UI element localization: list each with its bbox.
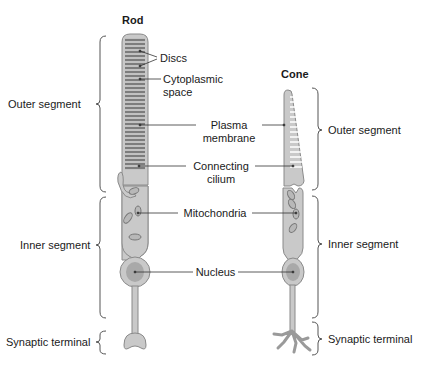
- cone-title: Cone: [281, 68, 309, 80]
- label-discs: Discs: [160, 52, 187, 64]
- label-inner-segment-right: Inner segment: [328, 238, 398, 250]
- cone-discs: [290, 97, 302, 167]
- label-connecting: Connecting: [187, 160, 255, 172]
- label-outer-segment-left: Outer segment: [8, 98, 81, 110]
- cone-cell: [274, 90, 310, 352]
- label-space: space: [163, 86, 192, 98]
- label-plasma: Plasma: [197, 119, 261, 131]
- label-cytoplasmic: Cytoplasmic: [163, 73, 223, 85]
- label-membrane: membrane: [197, 132, 261, 144]
- left-brackets: [96, 36, 106, 354]
- rod-title: Rod: [122, 14, 143, 26]
- rod-discs: [125, 40, 145, 168]
- label-cilium: cilium: [187, 173, 255, 185]
- label-synaptic-terminal-right: Synaptic terminal: [328, 333, 412, 345]
- label-nucleus: Nucleus: [193, 266, 238, 278]
- label-outer-segment-right: Outer segment: [328, 124, 401, 136]
- label-mitochondria: Mitochondria: [178, 207, 252, 219]
- label-synaptic-terminal-left: Synaptic terminal: [6, 336, 90, 348]
- right-brackets: [312, 88, 322, 355]
- label-inner-segment-left: Inner segment: [20, 239, 90, 251]
